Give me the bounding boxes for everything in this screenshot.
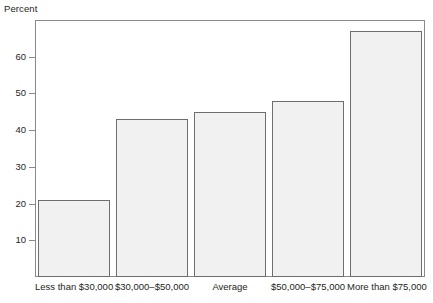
bar-chart: Percent 102030405060 Less than $30,000$3… [0,0,433,303]
bar [194,112,266,277]
x-axis-label: Average [191,281,269,293]
bar [116,119,188,277]
bar [272,101,344,277]
y-axis-tick-label: 50 [2,88,26,98]
bar-series [35,20,425,277]
bar [350,31,422,277]
bar [38,200,110,277]
y-axis-tick-label: 10 [2,235,26,245]
y-axis-tick-label: 30 [2,162,26,172]
y-axis-title: Percent [4,3,37,14]
x-axis-label: $50,000–$75,000 [269,281,347,293]
y-axis-tick-label: 40 [2,125,26,135]
y-axis-tick-label: 20 [2,199,26,209]
y-axis-tick-label: 60 [2,52,26,62]
x-axis-label: More than $75,000 [347,281,425,293]
x-axis-label: Less than $30,000 [35,281,113,293]
x-axis-labels: Less than $30,000$30,000–$50,000Average$… [35,281,425,299]
x-axis-label: $30,000–$50,000 [113,281,191,293]
